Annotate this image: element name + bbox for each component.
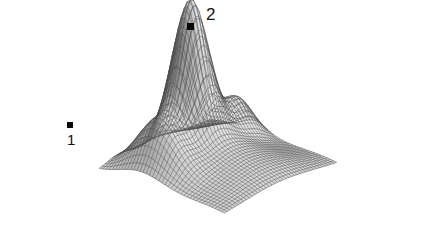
surface-mesh-canvas [0,0,434,243]
surface-plot-figure: 1 2 [0,0,434,243]
